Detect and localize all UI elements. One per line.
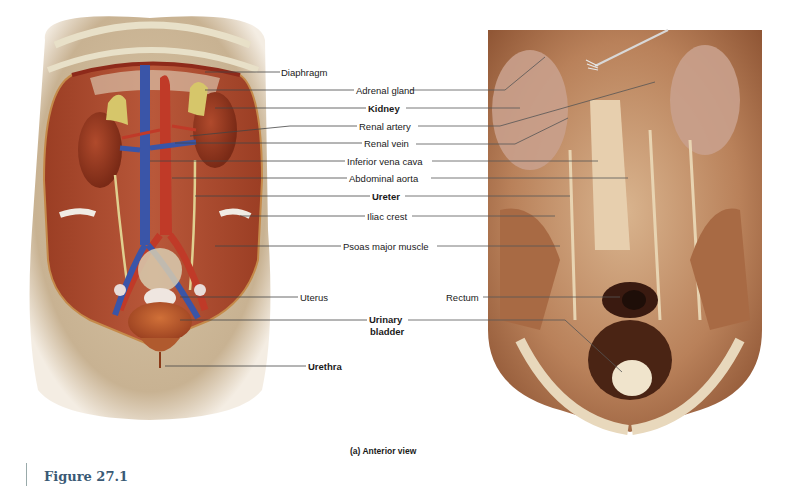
label-urethra: Urethra (308, 361, 342, 372)
label-ureter: Ureter (372, 191, 400, 202)
label-diaphragm: Diaphragm (281, 67, 327, 78)
label-kidney: Kidney (368, 103, 400, 114)
label-psoas-major-muscle: Psoas major muscle (343, 241, 429, 252)
label-inferior-vena-cava: Inferior vena cava (347, 156, 423, 167)
label-renal-artery: Renal artery (359, 121, 411, 132)
label-renal-vein: Renal vein (364, 138, 409, 149)
label-urinary-bladder-line2: bladder (370, 326, 404, 337)
label-iliac-crest: Iliac crest (367, 211, 407, 222)
label-rectum: Rectum (446, 292, 479, 303)
label-uterus: Uterus (300, 292, 328, 303)
urinary-bladder (128, 302, 192, 342)
label-adrenal-gland: Adrenal gland (356, 85, 415, 96)
figure-number: Figure 27.1 (44, 469, 128, 484)
figure-divider (26, 463, 27, 486)
label-urinary-bladder: Urinary (369, 314, 402, 325)
figure-caption: (a) Anterior view (350, 446, 416, 456)
bladder-photo (612, 360, 652, 396)
inferior-vena-cava (140, 65, 150, 245)
label-abdominal-aorta: Abdominal aorta (349, 173, 418, 184)
